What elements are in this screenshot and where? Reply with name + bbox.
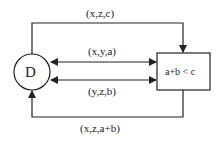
node-box-label: a+b < c <box>165 67 195 77</box>
edge-top-label: (x,z,c) <box>86 8 114 19</box>
arrowhead-lower-left <box>50 76 58 84</box>
arrowhead-upper-left <box>50 58 58 66</box>
edge-upper-label: (x,y,a) <box>88 46 116 57</box>
edge-lower-label: (y,z,b) <box>88 86 116 97</box>
edge-bottom-label: (x,z,a+b) <box>80 123 120 134</box>
node-d-label: D <box>25 65 36 80</box>
